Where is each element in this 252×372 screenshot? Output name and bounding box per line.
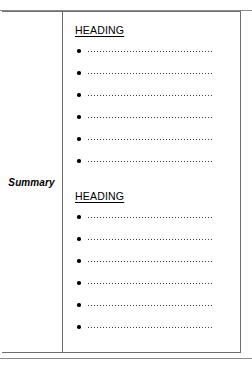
bullet-row[interactable] <box>75 150 226 172</box>
bullet-dot-icon <box>77 237 81 241</box>
summary-label-cell: Summary <box>2 12 63 352</box>
dotted-leader-line[interactable] <box>87 261 213 262</box>
bullet-row[interactable] <box>75 206 226 228</box>
bullet-row[interactable] <box>75 40 226 62</box>
bullet-dot-icon <box>77 93 81 97</box>
section-2-bullet-list <box>75 206 226 338</box>
bullet-row[interactable] <box>75 250 226 272</box>
summary-label: Summary <box>8 177 54 188</box>
dotted-leader-line[interactable] <box>87 283 213 284</box>
dotted-leader-line[interactable] <box>87 305 213 306</box>
dotted-leader-line[interactable] <box>87 327 213 328</box>
section-1-heading: HEADING <box>75 24 124 36</box>
bullet-row[interactable] <box>75 316 226 338</box>
summary-table: Summary HEADING <box>2 11 241 353</box>
bullet-row[interactable] <box>75 128 226 150</box>
bullet-dot-icon <box>77 71 81 75</box>
bullet-dot-icon <box>77 281 81 285</box>
dotted-leader-line[interactable] <box>87 161 213 162</box>
bullet-dot-icon <box>77 325 81 329</box>
bullet-row[interactable] <box>75 84 226 106</box>
dotted-leader-line[interactable] <box>87 217 213 218</box>
section-2: HEADING <box>75 186 226 338</box>
dotted-leader-line[interactable] <box>87 139 213 140</box>
bullet-dot-icon <box>77 303 81 307</box>
page-bottom-rule <box>0 358 252 359</box>
document-page: Summary HEADING <box>0 0 252 372</box>
dotted-leader-line[interactable] <box>87 117 213 118</box>
dotted-leader-line[interactable] <box>87 95 213 96</box>
section-2-heading: HEADING <box>75 190 124 202</box>
bullet-dot-icon <box>77 137 81 141</box>
bullet-dot-icon <box>77 259 81 263</box>
dotted-leader-line[interactable] <box>87 73 213 74</box>
bullet-dot-icon <box>77 115 81 119</box>
section-1-bullet-list <box>75 40 226 172</box>
bullet-row[interactable] <box>75 106 226 128</box>
section-1: HEADING <box>75 20 226 172</box>
summary-content-cell: HEADING <box>63 12 240 352</box>
bullet-row[interactable] <box>75 228 226 250</box>
bullet-dot-icon <box>77 49 81 53</box>
dotted-leader-line[interactable] <box>87 51 213 52</box>
bullet-row[interactable] <box>75 62 226 84</box>
dotted-leader-line[interactable] <box>87 239 213 240</box>
bullet-row[interactable] <box>75 294 226 316</box>
bullet-dot-icon <box>77 215 81 219</box>
bullet-row[interactable] <box>75 272 226 294</box>
bullet-dot-icon <box>77 159 81 163</box>
